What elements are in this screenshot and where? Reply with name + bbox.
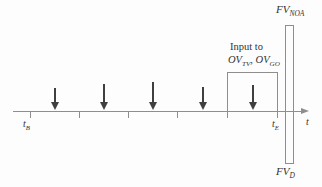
input-bracket-left	[227, 72, 228, 118]
axis-tick	[30, 112, 31, 118]
cash-flow-down-arrow	[198, 87, 208, 110]
fv-d-label: FVD	[276, 166, 295, 178]
input-to-label: Input to	[230, 41, 263, 52]
fv-noa-main: FV	[276, 3, 289, 15]
fv-d-main: FV	[276, 165, 289, 177]
input-bracket-top	[227, 72, 278, 73]
cash-flow-down-arrow	[148, 82, 158, 110]
t-e-sub: E	[275, 124, 279, 131]
ov-go-sub: GO	[270, 60, 280, 68]
ov-tv-main: OV	[228, 54, 242, 65]
fv-d-sub: D	[289, 171, 294, 180]
time-axis-arrowhead-icon	[301, 108, 309, 114]
t-e-label: tE	[272, 118, 279, 130]
axis-tick	[128, 112, 129, 118]
cash-flow-down-arrow	[99, 84, 109, 110]
fv-noa-label: FVNOA	[276, 4, 304, 16]
t-b-label: tB	[23, 118, 30, 130]
ov-go-main: OV	[256, 54, 270, 65]
time-axis	[13, 111, 303, 112]
ov-terms-label: OVTV, OVGO	[228, 54, 280, 67]
t-b-sub: B	[26, 124, 30, 131]
input-bracket-right	[277, 72, 278, 118]
ov-tv-sub: TV	[242, 60, 250, 68]
fv-noa-sub: NOA	[289, 9, 304, 18]
valuation-timeline-diagram: FVNOA FVD Input to OVTV, OVGO tB tE t	[0, 0, 322, 187]
value-bar-rect	[285, 25, 294, 164]
cash-flow-down-arrow	[50, 88, 60, 110]
axis-tick	[79, 112, 80, 118]
time-axis-label: t	[306, 116, 309, 127]
axis-tick	[177, 112, 178, 118]
cash-flow-down-arrow	[248, 85, 258, 110]
